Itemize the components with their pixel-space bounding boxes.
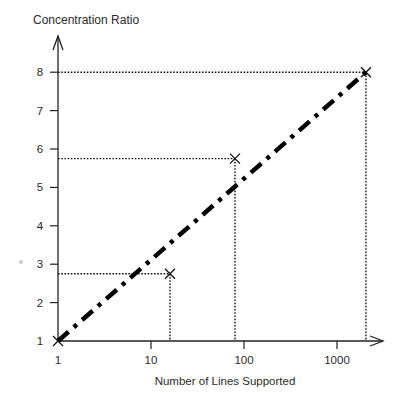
y-tick-label: 5 (37, 181, 43, 193)
y-tick-label: 3 (37, 258, 43, 270)
x-tick-label: 100 (234, 354, 253, 366)
chart: 123456781101001000 Concentration Ratio N… (0, 0, 401, 402)
trend-line (58, 72, 366, 341)
x-tick-label: 1 (55, 354, 61, 366)
y-tick-label: 4 (37, 220, 44, 232)
y-axis-label: Concentration Ratio (33, 13, 139, 27)
y-tick-label: 8 (37, 66, 43, 78)
trend-line-path (58, 72, 366, 341)
y-tick-label: 1 (37, 335, 43, 347)
x-axis-label: Number of Lines Supported (155, 375, 296, 387)
x-tick-label: 1000 (324, 354, 350, 366)
stray-dot (19, 260, 23, 264)
y-tick-label: 7 (37, 105, 43, 117)
y-tick-label: 2 (37, 297, 43, 309)
axes (53, 36, 383, 346)
y-tick-label: 6 (37, 143, 43, 155)
x-tick-label: 10 (145, 354, 158, 366)
